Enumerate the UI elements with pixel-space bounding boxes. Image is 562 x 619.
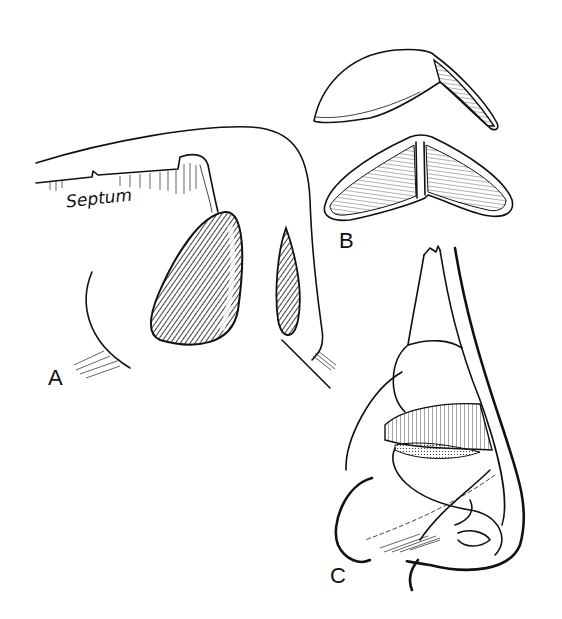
anatomy-illustration — [0, 0, 562, 619]
panel-label-a: A — [48, 365, 63, 391]
panel-label-c: C — [330, 563, 346, 589]
panel-a — [36, 127, 336, 388]
panel-c — [336, 246, 524, 590]
panel-label-b: B — [339, 228, 354, 254]
panel-b — [314, 49, 513, 220]
